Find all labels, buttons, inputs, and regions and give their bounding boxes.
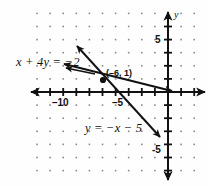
x-tick-label-neg5: –5 xyxy=(112,98,123,108)
equation-label-2: y = −x − 5 xyxy=(85,122,142,135)
y-tick-label-neg5: -5 xyxy=(152,145,161,155)
intersection-point-label: (–6, 1) xyxy=(106,69,132,78)
y-tick-label-5: 5 xyxy=(155,35,161,45)
coordinate-plane-svg xyxy=(0,0,208,186)
x-tick-label-neg10: –10 xyxy=(52,98,69,108)
y-axis xyxy=(164,12,172,180)
equation-label-1: x + 4y = −2 xyxy=(16,56,80,69)
graph-figure: x + 4y = −2 y = −x − 5 (–6, 1) –10 –5 5 … xyxy=(0,0,208,186)
y-axis-name-label: y xyxy=(174,10,178,20)
